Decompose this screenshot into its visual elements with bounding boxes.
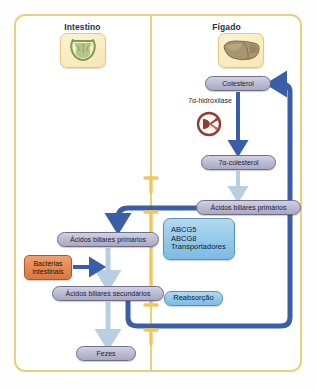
bacteria-line-1: Bactérias	[33, 260, 62, 268]
node-acidos-biliares-primarios-intestino[interactable]: Ácidos biliares primários	[57, 232, 159, 247]
panel-title-liver: Fígado	[151, 22, 302, 32]
node-colesterol[interactable]: Colesterol	[205, 76, 271, 91]
enzyme-circle-icon	[196, 111, 222, 137]
node-transportadores[interactable]: ABCG5 ABCG8 Transportadores	[163, 218, 235, 260]
panel-title-intestine: Intestino	[14, 22, 151, 32]
liver-icon	[218, 33, 264, 68]
transporter-label: Transportadores	[171, 243, 226, 251]
node-fezes[interactable]: Fezes	[76, 346, 136, 361]
enzyme-label: 7α-hidroxilase	[167, 97, 253, 104]
node-7a-colesterol[interactable]: 7α-colesterol	[201, 155, 276, 170]
bacteria-line-2: intestinais	[32, 268, 63, 276]
diagram-canvas: Intestino Fígado	[0, 0, 316, 390]
intestine-icon	[60, 33, 106, 68]
panel-divider-membrane	[150, 14, 152, 372]
node-acidos-biliares-primarios-figado[interactable]: Ácidos biliares primários	[196, 200, 301, 215]
node-reabsorcao[interactable]: Reabsorção	[164, 291, 223, 306]
node-acidos-biliares-secundarios[interactable]: Ácidos biliares secundários	[52, 286, 164, 301]
node-bacterias-intestinais[interactable]: Bactérias intestinais	[24, 255, 72, 280]
